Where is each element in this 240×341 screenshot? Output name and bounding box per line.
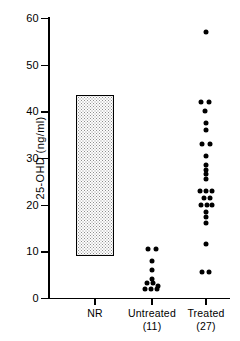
y-tick-label: 0	[33, 293, 39, 304]
x-tick	[151, 298, 152, 305]
y-tick-label: 30	[26, 153, 39, 164]
data-point	[207, 270, 212, 275]
group-name: Untreated	[128, 307, 176, 320]
y-tick	[41, 18, 48, 19]
data-point	[199, 202, 204, 207]
data-point	[207, 100, 212, 105]
data-point	[149, 286, 154, 291]
data-point	[150, 258, 155, 263]
data-point	[200, 142, 205, 147]
data-point	[154, 246, 159, 251]
data-point	[204, 128, 209, 133]
data-point	[203, 109, 208, 114]
data-point	[208, 142, 213, 147]
data-point	[204, 30, 209, 35]
x-tick	[94, 298, 95, 305]
data-point	[150, 268, 155, 273]
normal-range-bar	[76, 95, 114, 256]
y-tick	[41, 298, 48, 299]
data-point	[208, 195, 213, 200]
x-tick	[205, 298, 206, 305]
data-point	[204, 188, 209, 193]
y-tick-label: 60	[26, 13, 39, 24]
data-point	[204, 220, 209, 225]
x-axis-label-untreated: Untreated(11)	[128, 307, 176, 332]
x-axis-label-nr: NR	[87, 307, 103, 320]
data-point	[202, 195, 207, 200]
chart-figure: 25-OHD (ng/ml) 0102030405060NRUntreated(…	[0, 0, 240, 341]
group-count: (11)	[128, 320, 176, 333]
y-tick-label: 40	[26, 106, 39, 117]
data-point	[210, 202, 215, 207]
y-tick-label: 50	[26, 59, 39, 70]
plot-area: 0102030405060NRUntreated(11)Treated(27)	[48, 18, 230, 298]
y-tick	[41, 251, 48, 252]
data-point	[198, 188, 203, 193]
y-tick	[41, 111, 48, 112]
y-axis-title-wrap: 25-OHD (ng/ml)	[0, 18, 16, 298]
data-point	[204, 121, 209, 126]
data-point	[146, 246, 151, 251]
group-name: NR	[87, 307, 103, 320]
data-point	[199, 100, 204, 105]
y-tick-label: 20	[26, 199, 39, 210]
x-axis-label-treated: Treated(27)	[187, 307, 224, 332]
group-count: (27)	[187, 320, 224, 333]
data-point	[145, 280, 150, 285]
data-point	[143, 286, 148, 291]
data-point	[204, 177, 209, 182]
data-point	[204, 242, 209, 247]
data-point	[204, 153, 209, 158]
y-tick	[41, 205, 48, 206]
y-tick	[41, 65, 48, 66]
data-point	[210, 188, 215, 193]
group-name: Treated	[187, 307, 224, 320]
y-tick-label: 10	[26, 246, 39, 257]
data-point	[204, 209, 209, 214]
data-point	[155, 286, 160, 291]
y-tick	[41, 158, 48, 159]
data-point	[204, 215, 209, 220]
data-point	[200, 270, 205, 275]
